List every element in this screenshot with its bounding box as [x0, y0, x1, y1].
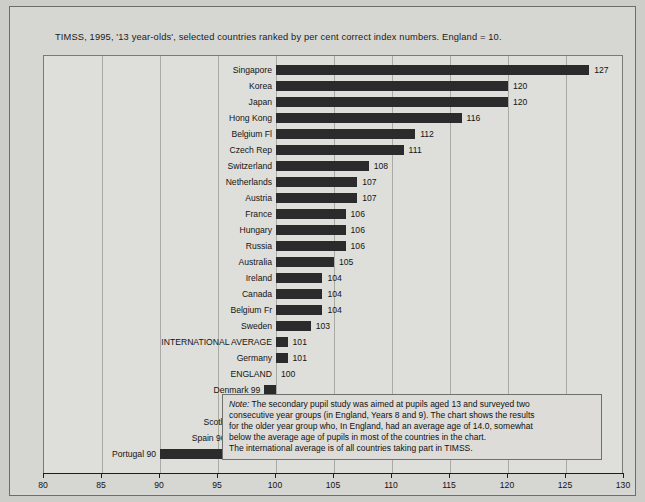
bar	[276, 161, 369, 171]
tick-100	[275, 473, 276, 478]
bar	[276, 353, 288, 363]
bar-row: ENGLAND100	[44, 366, 622, 382]
bar	[276, 257, 334, 267]
value-label: 106	[351, 209, 365, 219]
value-label: 101	[293, 353, 307, 363]
chart-title: TIMSS, 1995, '13 year-olds', selected co…	[55, 32, 502, 42]
category-label: Belgium Fr	[44, 305, 272, 315]
category-label: Korea	[44, 81, 272, 91]
tick-label-80: 80	[38, 480, 48, 490]
chart-page: TIMSS, 1995, '13 year-olds', selected co…	[0, 0, 645, 502]
value-label: 106	[351, 225, 365, 235]
chart-card: TIMSS, 1995, '13 year-olds', selected co…	[9, 6, 636, 496]
bar	[276, 337, 288, 347]
tick-125	[565, 473, 566, 478]
bar-row: Canada104	[44, 286, 622, 302]
category-label: Russia	[44, 241, 272, 251]
bar	[276, 273, 322, 283]
value-label: 107	[362, 193, 376, 203]
category-label: Scotland 98	[44, 417, 249, 427]
note-line-0: The secondary pupil study was aimed at p…	[249, 399, 530, 409]
note-line-3: below the average age of pupils in most …	[229, 432, 486, 442]
tick-label-120: 120	[500, 480, 514, 490]
value-label: 111	[409, 145, 422, 155]
bar	[276, 225, 346, 235]
bar	[276, 129, 415, 139]
tick-label-85: 85	[96, 480, 106, 490]
value-label: 104	[327, 289, 341, 299]
value-label: 100	[281, 369, 295, 379]
category-label: Singapore	[44, 65, 272, 75]
value-label: 112	[420, 129, 434, 139]
tick-105	[333, 473, 334, 478]
tick-label-130: 130	[616, 480, 630, 490]
bar	[276, 321, 311, 331]
bar	[276, 305, 322, 315]
category-label: Canada	[44, 289, 272, 299]
category-label: Belgium Fl	[44, 129, 272, 139]
category-label: Sweden	[44, 321, 272, 331]
bar	[276, 209, 346, 219]
tick-label-110: 110	[384, 480, 398, 490]
note-lead: Note:	[229, 399, 249, 409]
note-line-2: for the older year group who, In England…	[229, 421, 533, 431]
value-label: 120	[513, 81, 527, 91]
bar	[276, 65, 589, 75]
tick-label-125: 125	[558, 480, 572, 490]
bar	[276, 113, 462, 123]
value-label: 108	[374, 161, 388, 171]
category-label: ENGLAND	[44, 369, 272, 379]
bar-row: Czech Rep111	[44, 142, 622, 158]
tick-95	[217, 473, 218, 478]
category-label: Germany	[44, 353, 272, 363]
bar	[276, 145, 404, 155]
bar-row: Germany101	[44, 350, 622, 366]
value-label: 120	[513, 97, 527, 107]
tick-label-95: 95	[212, 480, 222, 490]
bar-row: Ireland104	[44, 270, 622, 286]
tick-label-100: 100	[268, 480, 282, 490]
category-label: Hong Kong	[44, 113, 272, 123]
tick-130	[623, 473, 624, 478]
tick-85	[101, 473, 102, 478]
bar-row: Japan120	[44, 94, 622, 110]
tick-label-90: 90	[154, 480, 164, 490]
category-label: INTERNATIONAL AVERAGE	[44, 337, 272, 347]
tick-label-115: 115	[442, 480, 456, 490]
category-label: Japan	[44, 97, 272, 107]
bar	[276, 177, 357, 187]
bar-row: Belgium Fr104	[44, 302, 622, 318]
value-label: 105	[339, 257, 353, 267]
value-label: 116	[467, 113, 481, 123]
tick-120	[507, 473, 508, 478]
bar	[276, 289, 322, 299]
note-line-1: consecutive year groups (in England, Yea…	[229, 410, 535, 420]
value-label: 104	[327, 305, 341, 315]
category-label: Portugal 90	[44, 449, 156, 459]
note-box: Note: The secondary pupil study was aime…	[222, 394, 602, 460]
category-label: Australia	[44, 257, 272, 267]
bar-row: Switzerland108	[44, 158, 622, 174]
category-label: Switzerland	[44, 161, 272, 171]
category-label: France	[44, 209, 272, 219]
value-label: 103	[316, 321, 330, 331]
bar-row: Hong Kong116	[44, 110, 622, 126]
category-label: Netherlands	[44, 177, 272, 187]
bar	[276, 81, 508, 91]
bar	[276, 97, 508, 107]
bar-row: Australia105	[44, 254, 622, 270]
tick-label-105: 105	[326, 480, 340, 490]
tick-80	[43, 473, 44, 478]
bar-row: France106	[44, 206, 622, 222]
category-label: Spain 96	[44, 433, 226, 443]
bar-row: Netherlands107	[44, 174, 622, 190]
category-label: Ireland	[44, 273, 272, 283]
value-label: 107	[362, 177, 376, 187]
bar-row: Hungary106	[44, 222, 622, 238]
category-label: Austria	[44, 193, 272, 203]
value-label: 104	[327, 273, 341, 283]
value-label: 127	[594, 65, 608, 75]
tick-115	[449, 473, 450, 478]
bar-row: INTERNATIONAL AVERAGE101	[44, 334, 622, 350]
note-line-4: The international average is of all coun…	[229, 443, 473, 453]
